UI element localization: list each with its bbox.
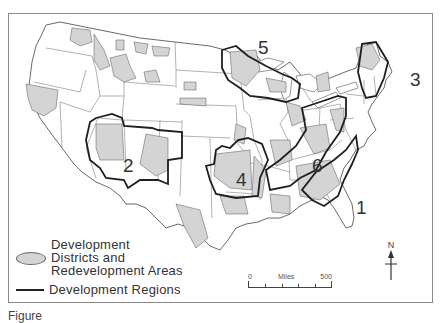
scale-end: 500 bbox=[320, 273, 332, 280]
figure-caption: Figure bbox=[8, 309, 42, 323]
region-label-3: 3 bbox=[410, 70, 421, 89]
legend-item-regions: Development Regions bbox=[16, 283, 183, 296]
scale-unit: Miles bbox=[278, 273, 294, 280]
legend-label-districts: Development Districts and Redevelopment … bbox=[51, 238, 183, 277]
legend-label-regions: Development Regions bbox=[49, 283, 181, 296]
north-label: N bbox=[384, 240, 398, 250]
scale-start: 0 bbox=[248, 273, 252, 280]
region-label-4: 4 bbox=[236, 170, 247, 189]
region-label-6: 6 bbox=[312, 156, 323, 175]
north-arrow-icon bbox=[384, 250, 398, 280]
legend-item-districts: Development Districts and Redevelopment … bbox=[16, 238, 183, 277]
map-legend: Development Districts and Redevelopment … bbox=[16, 238, 183, 296]
scale-bar: 0 Miles 500 bbox=[248, 273, 332, 288]
region-label-1: 1 bbox=[356, 198, 367, 217]
region-label-2: 2 bbox=[123, 156, 134, 175]
region-label-5: 5 bbox=[258, 38, 269, 57]
north-arrow: N bbox=[384, 240, 398, 280]
shaded-area-swatch-icon bbox=[16, 252, 46, 265]
heavy-line-swatch-icon bbox=[16, 289, 44, 291]
